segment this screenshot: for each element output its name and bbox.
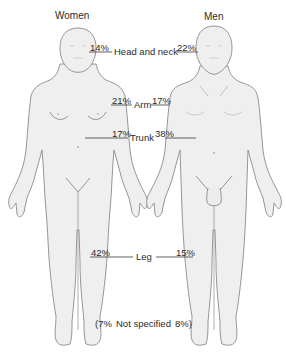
- woman-figure: [9, 28, 148, 345]
- not-specified-label: Not specified: [116, 318, 171, 329]
- head-women-pct: 14%: [90, 42, 109, 53]
- column-title-women: Women: [55, 10, 89, 21]
- trunk-women-pct: 17%: [112, 128, 131, 139]
- arm-men-pct: 17%: [152, 95, 171, 106]
- not-specified-men-pct: 8%): [175, 318, 192, 329]
- head-men-pct: 22%: [177, 42, 196, 53]
- arm-women-pct: 21%: [112, 95, 131, 106]
- column-title-men: Men: [204, 11, 223, 22]
- man-figure: [147, 26, 282, 345]
- arm-region-label: Arm: [134, 99, 151, 110]
- leg-region-label: Leg: [136, 251, 152, 262]
- leg-women-pct: 42%: [91, 247, 110, 258]
- leg-men-pct: 15%: [176, 247, 195, 258]
- trunk-men-pct: 38%: [155, 128, 174, 139]
- not-specified-women-pct: (7%: [95, 318, 112, 329]
- body-diagram: Women Men 14% Head and neck 22% 21% Arm …: [0, 0, 286, 360]
- head-region-label: Head and neck: [114, 46, 178, 57]
- trunk-region-label: Trunk: [130, 132, 154, 143]
